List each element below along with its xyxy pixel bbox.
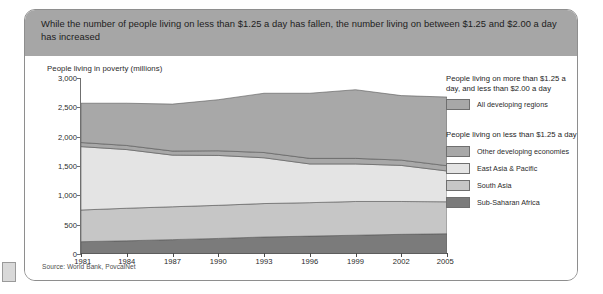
x-tick-mark [401, 253, 402, 257]
legend-item-sub-saharan-africa[interactable]: Sub-Saharan Africa [446, 196, 578, 209]
legend-spacer [446, 115, 578, 130]
figure-card: While the number of people living on les… [24, 9, 578, 281]
legend-label-east-asia-pacific: East Asia & Pacific [477, 164, 537, 173]
legend-group-title-1: People living on more than $1.25 a day, … [446, 74, 578, 94]
x-tick-mark [127, 253, 128, 257]
x-tick-label: 1996 [301, 257, 318, 266]
legend-swatch-other-developing-economies [446, 146, 470, 157]
x-tick-mark [173, 253, 174, 257]
x-tick-label: 2005 [437, 257, 454, 266]
figure-title-band: While the number of people living on les… [25, 10, 577, 56]
legend-item-other-developing-economies[interactable]: Other developing economies [446, 145, 578, 158]
legend-group-title-2: People living on less than $1.25 a day [446, 130, 578, 140]
legend-item-south-asia[interactable]: South Asia [446, 179, 578, 192]
y-tick-label: 1,500 [45, 162, 77, 171]
legend-label-sub-saharan-africa: Sub-Saharan Africa [477, 198, 540, 207]
y-tick-mark [77, 195, 81, 196]
y-tick-label: 2,500 [45, 103, 77, 112]
x-tick-mark [447, 253, 448, 257]
legend-label-all-developing-regions: All developing regions [477, 100, 548, 109]
legend-swatch-all-developing-regions [446, 99, 470, 110]
legend-swatch-sub-saharan-africa [446, 197, 470, 208]
y-tick-mark [77, 166, 81, 167]
legend-label-south-asia: South Asia [477, 181, 512, 190]
x-tick-mark [356, 253, 357, 257]
source-note: Source: World Bank, PovcalNet [42, 263, 136, 270]
x-tick-label: 2002 [393, 257, 410, 266]
chart-legend: People living on more than $1.25 a day, … [446, 74, 578, 213]
y-tick-mark [77, 137, 81, 138]
x-tick-mark [81, 253, 82, 257]
page-corner-marker [2, 262, 16, 282]
y-tick-mark [77, 78, 81, 79]
y-axis-tick-labels: 05001,0001,5002,0002,5003,000 [41, 78, 77, 268]
figure-body: People living in poverty (millions) 0500… [25, 56, 577, 281]
x-tick-label: 1993 [256, 257, 273, 266]
y-axis-caption: People living in poverty (millions) [47, 64, 162, 73]
x-tick-label: 1990 [210, 257, 227, 266]
stacked-area-chart [81, 78, 447, 254]
legend-item-east-asia-pacific[interactable]: East Asia & Pacific [446, 162, 578, 175]
plot-area-wrapper: 05001,0001,5002,0002,5003,000 1981198419… [41, 78, 451, 268]
x-tick-mark [218, 253, 219, 257]
y-tick-label: 2,000 [45, 132, 77, 141]
x-tick-label: 1987 [164, 257, 181, 266]
y-tick-label: 3,000 [45, 74, 77, 83]
y-tick-label: 0 [45, 250, 77, 259]
legend-swatch-south-asia [446, 180, 470, 191]
x-tick-mark [264, 253, 265, 257]
y-tick-label: 500 [45, 220, 77, 229]
plot-area: 198119841987199019931996199920022005 [80, 78, 447, 254]
figure-title: While the number of people living on les… [41, 17, 561, 44]
legend-swatch-east-asia-pacific [446, 163, 470, 174]
x-tick-label: 1999 [347, 257, 364, 266]
legend-item-all-developing-regions[interactable]: All developing regions [446, 98, 578, 111]
legend-label-other-developing-economies: Other developing economies [477, 147, 569, 156]
x-tick-mark [310, 253, 311, 257]
y-tick-mark [77, 107, 81, 108]
y-tick-mark [77, 225, 81, 226]
y-tick-label: 1,000 [45, 191, 77, 200]
